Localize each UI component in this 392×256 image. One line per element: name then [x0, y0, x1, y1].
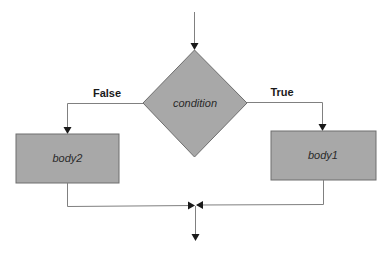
body1-label: body1 [308, 149, 338, 161]
false-branch-label: False [93, 87, 121, 99]
condition-label: condition [173, 97, 217, 109]
body2-node: body2 [16, 134, 119, 183]
body1-merge-edge [197, 180, 324, 205]
flowchart-canvas: condition False True body2 body1 [0, 0, 392, 256]
true-branch-label: True [270, 86, 293, 98]
body2-label: body2 [53, 152, 83, 164]
condition-node: condition [143, 50, 247, 157]
false-branch-edge: False [68, 87, 144, 133]
body1-node: body1 [271, 131, 376, 180]
body2-merge-edge [68, 183, 195, 207]
true-branch-edge: True [247, 86, 323, 130]
